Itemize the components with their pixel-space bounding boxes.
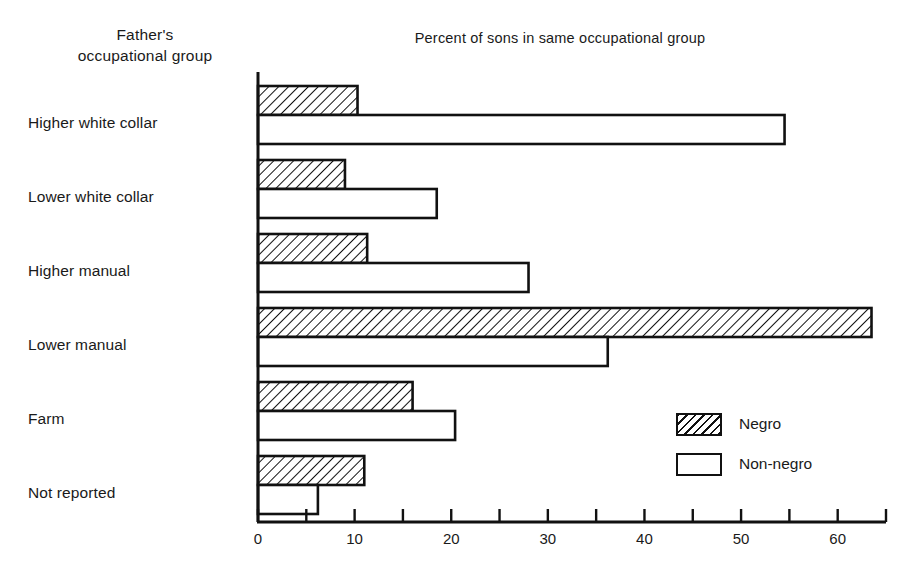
x-tick-label-20: 20 [431,530,471,547]
bar-lower-manual-negro [258,308,872,337]
bar-not-reported-non-negro [258,485,318,514]
category-axis-title-line2: occupational group [40,45,250,66]
bar-higher-white-collar-non-negro [258,115,785,144]
bar-higher-white-collar-negro [258,86,358,115]
x-tick-label-30: 30 [528,530,568,547]
category-label-5: Not reported [28,484,248,502]
category-label-2: Higher manual [28,262,248,280]
chart-figure: Father's occupational group Percent of s… [0,0,919,570]
open-swatch-icon [676,453,722,476]
category-label-1: Lower white collar [28,188,248,206]
category-axis-title-line1: Father's [40,24,250,45]
bar-higher-manual-non-negro [258,263,529,292]
bar-lower-white-collar-non-negro [258,189,437,218]
legend-label-0: Negro [739,415,781,433]
legend-item-non-negro: Non-negro [676,444,886,484]
chart-legend: Negro Non-negro [676,404,886,484]
bar-higher-manual-negro [258,234,367,263]
x-tick-label-60: 60 [818,530,858,547]
chart-title: Percent of sons in same occupational gro… [300,30,820,46]
hatched-swatch-icon [676,413,722,436]
bar-farm-non-negro [258,411,455,440]
bar-lower-white-collar-negro [258,160,345,189]
category-axis-title: Father's occupational group [40,24,250,66]
legend-label-1: Non-negro [739,455,812,473]
category-label-4: Farm [28,410,248,428]
bar-not-reported-negro [258,456,364,485]
x-tick-label-10: 10 [335,530,375,547]
legend-item-negro: Negro [676,404,886,444]
bar-lower-manual-non-negro [258,337,608,366]
category-label-0: Higher white collar [28,114,248,132]
x-tick-label-40: 40 [624,530,664,547]
x-tick-label-0: 0 [238,530,278,547]
x-tick-label-50: 50 [721,530,761,547]
category-label-3: Lower manual [28,336,248,354]
bar-farm-negro [258,382,413,411]
